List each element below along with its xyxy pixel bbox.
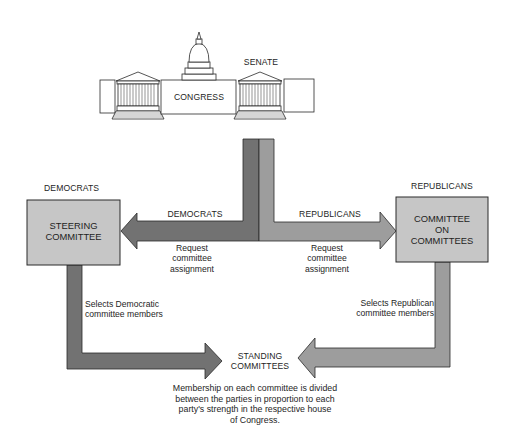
republicans-request-line: Request	[292, 243, 362, 253]
steering-committee-line: COMMITTEE	[27, 231, 120, 242]
membership-note-line: between the parties in proportion to eac…	[150, 394, 360, 405]
democrats-request-arrow	[121, 139, 259, 249]
republicans-request-line: assignment	[292, 264, 362, 274]
democrats-request-text: Request committee assignment	[157, 243, 227, 274]
standing-committees-line: STANDING	[222, 351, 298, 361]
steering-committee-line: STEERING	[27, 220, 120, 231]
republicans-select-arrow	[298, 262, 450, 378]
capitol-right-wing	[284, 79, 314, 112]
capitol-right-portico	[234, 72, 286, 119]
capitol-left-wing	[100, 80, 115, 113]
republicans-header: REPUBLICANS	[400, 181, 484, 191]
committee-on-committees-line: ON	[396, 224, 488, 235]
committee-on-committees-line: COMMITTEE	[396, 213, 488, 224]
standing-committees-line: COMMITTEES	[222, 361, 298, 371]
capitol-building-icon	[100, 32, 314, 119]
republicans-request-arrow	[259, 139, 396, 249]
democrats-request-line: Request	[157, 243, 227, 253]
democrats-request-line: assignment	[157, 264, 227, 274]
democrats-select-text: Selects Democratic committee members	[85, 299, 177, 320]
standing-committees-label: STANDING COMMITTEES	[222, 351, 298, 372]
membership-note-line: of Congress.	[150, 415, 360, 426]
membership-note-line: party's strength in the respective house	[150, 404, 360, 415]
democrats-header: DEMOCRATS	[28, 183, 114, 193]
senate-label: SENATE	[236, 57, 286, 67]
democrats-request-line: committee	[157, 253, 227, 263]
membership-note: Membership on each committee is divided …	[150, 383, 360, 425]
republicans-request-text: Request committee assignment	[292, 243, 362, 274]
democrats-arrow-label: DEMOCRATS	[155, 209, 235, 219]
republicans-select-line: committee members	[339, 308, 434, 318]
membership-note-line: Membership on each committee is divided	[150, 383, 360, 394]
congress-label: CONGRESS	[163, 92, 235, 102]
republicans-arrow-label: REPUBLICANS	[290, 209, 370, 219]
republicans-request-line: committee	[292, 253, 362, 263]
republicans-select-text: Selects Republican committee members	[339, 298, 434, 319]
committee-on-committees-label: COMMITTEE ON COMMITTEES	[396, 213, 488, 246]
committee-on-committees-line: COMMITTEES	[396, 235, 488, 246]
democrats-select-line: Selects Democratic	[85, 299, 177, 309]
capitol-dome	[182, 32, 216, 80]
republicans-select-line: Selects Republican	[339, 298, 434, 308]
capitol-left-portico	[112, 72, 164, 119]
steering-committee-label: STEERING COMMITTEE	[27, 220, 120, 242]
democrats-select-arrow	[67, 265, 222, 379]
democrats-select-line: committee members	[85, 309, 177, 319]
